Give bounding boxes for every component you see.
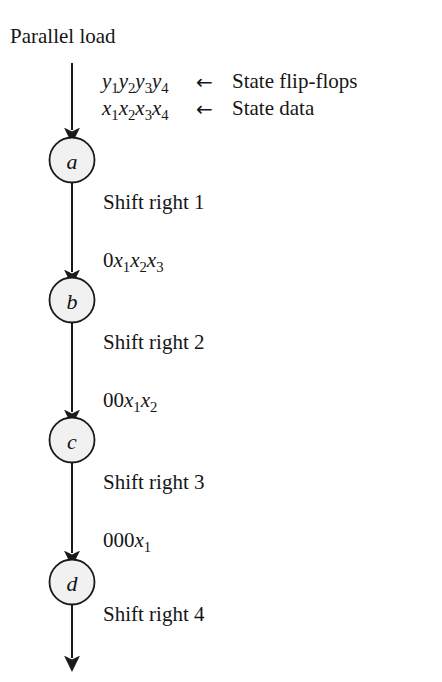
- shift-right-2-value: 00x1x2: [103, 390, 157, 414]
- left-arrow-icon-flip-flops: ←: [196, 72, 213, 92]
- shift-right-3-value: 000x1: [103, 530, 151, 554]
- state-flip-flops-label: State flip-flops: [232, 71, 357, 92]
- shift-right-1-value: 0x1x2x3: [103, 250, 164, 274]
- state-diagram-graphics: [0, 0, 442, 682]
- state-data-label: State data: [232, 98, 314, 119]
- node-c-circle[interactable]: [50, 418, 95, 463]
- left-arrow-icon-state-data: ←: [196, 99, 213, 119]
- shift-right-3-label: Shift right 3: [103, 472, 205, 493]
- shift-right-2-label: Shift right 2: [103, 332, 205, 353]
- node-b-circle[interactable]: [50, 278, 95, 323]
- state-data-symbols: x1x2x3x4: [102, 98, 169, 122]
- shift-right-4-label: Shift right 4: [103, 604, 205, 625]
- node-d-circle[interactable]: [50, 560, 95, 605]
- shift-right-1-label: Shift right 1: [103, 192, 205, 213]
- page-title: Parallel load: [10, 26, 116, 47]
- node-a-circle[interactable]: [50, 138, 95, 183]
- diagram-canvas: a b c d Parallel load y1y2y3y4 ← State f…: [0, 0, 442, 682]
- state-flip-flops-symbols: y1y2y3y4: [102, 71, 169, 95]
